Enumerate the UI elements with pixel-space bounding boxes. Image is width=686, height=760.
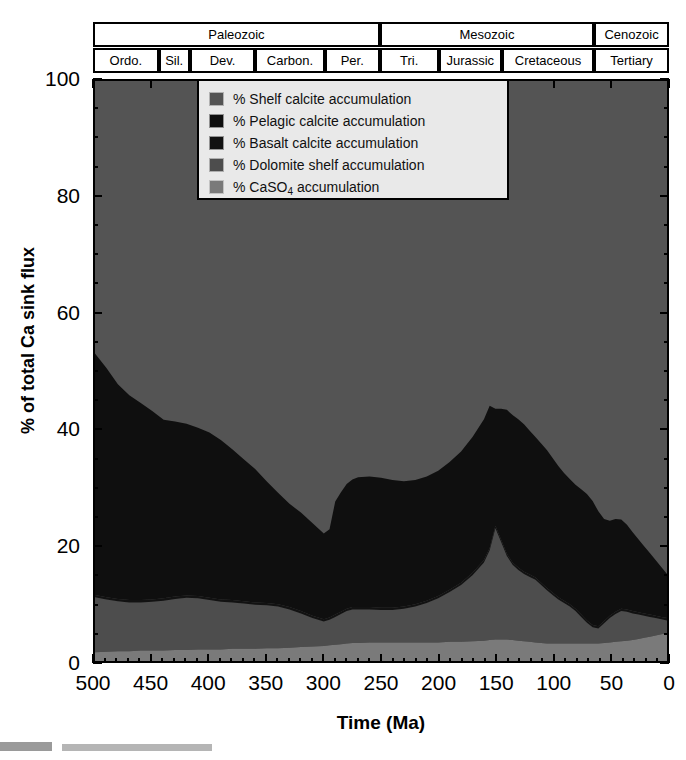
x-tick-440	[161, 658, 163, 663]
y-tick-right-50	[664, 370, 669, 372]
timescale-era-row: PaleozoicMesozoicCenozoic	[93, 22, 669, 47]
legend-item: % CaSO4 accumulation	[209, 176, 507, 198]
y-tick-30	[93, 487, 98, 489]
y-tick-right-15	[664, 574, 669, 576]
x-tick-120	[530, 658, 532, 663]
x-tick-360	[253, 658, 255, 663]
x-tick-110	[541, 658, 543, 663]
y-tick-right-45	[664, 399, 669, 401]
y-tick-right-55	[664, 341, 669, 343]
y-tick-right-65	[664, 282, 669, 284]
y-tick-right-70	[664, 253, 669, 255]
x-tick-370	[242, 658, 244, 663]
y-tick-70	[93, 253, 98, 255]
x-tick-60	[599, 658, 601, 663]
x-tick-470	[127, 658, 129, 663]
x-tick-230	[403, 658, 405, 663]
y-axis-title: % of total Ca sink flux	[18, 221, 39, 461]
y-tick-right-25	[664, 516, 669, 518]
timescale-cell-paleozoic: Paleozoic	[93, 22, 380, 47]
x-tick-340	[276, 658, 278, 663]
x-tick-480	[115, 658, 117, 663]
y-tick-right-5	[664, 633, 669, 635]
y-tick-75	[93, 224, 98, 226]
legend-item: % Basalt calcite accumulation	[209, 132, 507, 154]
x-tick-450	[150, 654, 152, 663]
x-tick-150	[495, 654, 497, 663]
x-tick-270	[357, 658, 359, 663]
x-tick-290	[334, 658, 336, 663]
x-tick-410	[196, 658, 198, 663]
legend-item: % Shelf calcite accumulation	[209, 88, 507, 110]
y-tick-label-100: 100	[34, 68, 80, 89]
y-tick-right-20	[660, 545, 669, 547]
x-tick-100	[553, 654, 555, 663]
x-tick-250	[380, 654, 382, 663]
x-tick-top-500	[92, 79, 94, 88]
x-tick-160	[484, 658, 486, 663]
x-tick-20	[645, 658, 647, 663]
y-tick-0	[93, 662, 102, 664]
timescale-cell-tertiary: Tertiary	[594, 48, 669, 73]
x-tick-500	[92, 654, 94, 663]
y-tick-right-85	[664, 166, 669, 168]
y-tick-90	[93, 136, 98, 138]
x-tick-390	[219, 658, 221, 663]
x-tick-460	[138, 658, 140, 663]
y-tick-right-95	[664, 107, 669, 109]
x-tick-top-50	[610, 79, 612, 88]
x-tick-90	[564, 658, 566, 663]
x-tick-180	[461, 658, 463, 663]
x-tick-420	[184, 658, 186, 663]
figure-stacked-area-ca-sink-flux: PaleozoicMesozoicCenozoic Ordo.Sil.Dev.C…	[0, 0, 686, 760]
legend-swatch-icon	[209, 180, 224, 194]
y-tick-label-80: 80	[34, 185, 80, 206]
legend-label: % Dolomite shelf accumulation	[233, 158, 424, 172]
y-tick-100	[93, 78, 102, 80]
x-tick-330	[288, 658, 290, 663]
y-tick-5	[93, 633, 98, 635]
y-tick-label-40: 40	[34, 418, 80, 439]
y-tick-right-75	[664, 224, 669, 226]
x-tick-280	[345, 658, 347, 663]
timescale-cell-cenozoic: Cenozoic	[594, 22, 669, 47]
y-tick-label-20: 20	[34, 535, 80, 556]
y-tick-right-40	[660, 428, 669, 430]
timescale-cell-sil: Sil.	[159, 48, 190, 73]
x-tick-label-500: 500	[58, 672, 128, 693]
x-tick-40	[622, 658, 624, 663]
x-tick-300	[322, 654, 324, 663]
timescale-cell-ordo: Ordo.	[93, 48, 159, 73]
y-tick-55	[93, 341, 98, 343]
y-tick-85	[93, 166, 98, 168]
timescale-cell-dev: Dev.	[190, 48, 256, 73]
x-axis-title: Time (Ma)	[93, 712, 669, 734]
y-tick-35	[93, 458, 98, 460]
legend-label: % CaSO4 accumulation	[233, 180, 379, 194]
x-tick-430	[173, 658, 175, 663]
x-tick-130	[518, 658, 520, 663]
y-tick-right-30	[664, 487, 669, 489]
x-tick-top-450	[150, 79, 152, 88]
y-tick-65	[93, 282, 98, 284]
y-tick-60	[93, 312, 102, 314]
x-tick-170	[472, 658, 474, 663]
timescale-cell-cretaceous: Cretaceous	[502, 48, 594, 73]
timescale-cell-tri: Tri.	[380, 48, 439, 73]
y-tick-20	[93, 545, 102, 547]
x-tick-200	[438, 654, 440, 663]
legend-label: % Basalt calcite accumulation	[233, 136, 418, 150]
timescale-cell-jurassic: Jurassic	[439, 48, 502, 73]
x-tick-190	[449, 658, 451, 663]
x-tick-top-0	[668, 79, 670, 88]
y-tick-25	[93, 516, 98, 518]
x-tick-80	[576, 658, 578, 663]
x-tick-350	[265, 654, 267, 663]
x-tick-30	[633, 658, 635, 663]
y-tick-right-10	[664, 604, 669, 606]
y-tick-40	[93, 428, 102, 430]
y-tick-95	[93, 107, 98, 109]
y-tick-10	[93, 604, 98, 606]
geologic-timescale: PaleozoicMesozoicCenozoic Ordo.Sil.Dev.C…	[93, 22, 669, 74]
y-tick-label-0: 0	[34, 652, 80, 673]
